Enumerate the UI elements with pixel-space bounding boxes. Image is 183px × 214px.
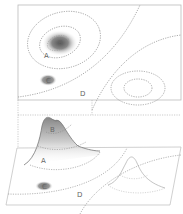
plan-view-panel: B A C D: [18, 3, 181, 110]
label-d: D: [80, 90, 85, 98]
label-a: A: [44, 52, 49, 60]
label-b: B: [58, 39, 63, 47]
label-a-3d: A: [41, 157, 46, 165]
label-c-3d: C: [42, 183, 47, 191]
perspective-view-panel: B A C D: [6, 117, 181, 214]
label-c: C: [46, 77, 51, 85]
contour-diagram: B A C D B A C D: [0, 0, 183, 214]
label-b-3d: B: [50, 126, 55, 134]
label-d-3d: D: [77, 191, 82, 199]
